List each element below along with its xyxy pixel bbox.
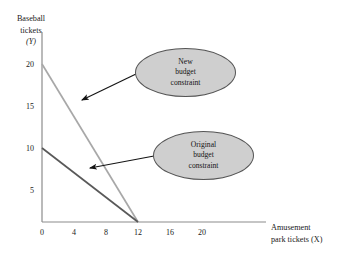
callout-new-line3: constraint	[171, 78, 201, 88]
x-tick-label-8: 8	[96, 228, 116, 237]
callout-new-line1: New	[171, 57, 201, 67]
y-tick-label-15: 15	[14, 102, 34, 111]
x-tick-label-16: 16	[160, 228, 180, 237]
x-axis-title: Amusement park tickets (X)	[271, 222, 337, 245]
y-tick-label-10: 10	[14, 144, 34, 153]
y-tick-label-5: 5	[14, 186, 34, 195]
callout-original-budget-constraint: Original budget constraint	[153, 131, 254, 180]
y-axis-title-line2: tickets	[8, 25, 54, 37]
x-tick-label-12: 12	[128, 228, 148, 237]
original-budget-constraint-line	[42, 148, 138, 222]
new-budget-constraint-line	[42, 64, 138, 222]
x-tick-label-4: 4	[64, 228, 84, 237]
callout-new-line2: budget	[171, 67, 201, 77]
x-axis-title-line2: park tickets (X)	[271, 234, 337, 246]
callout-original-line2: budget	[189, 150, 219, 160]
callout-original-text: Original budget constraint	[189, 140, 219, 171]
budget-constraint-chart: Baseball tickets (Y) Amusement park tick…	[0, 0, 339, 266]
y-tick-label-20: 20	[14, 60, 34, 69]
x-axis-title-line1: Amusement	[271, 222, 337, 234]
x-tick-label-0: 0	[32, 228, 52, 237]
y-axis-title-line3: (Y)	[8, 36, 54, 48]
y-axis-title-line1: Baseball	[8, 13, 54, 25]
new-callout-arrow	[82, 74, 136, 100]
callout-original-line1: Original	[189, 140, 219, 150]
callout-new-text: New budget constraint	[171, 57, 201, 88]
callout-original-line3: constraint	[189, 161, 219, 171]
callout-new-budget-constraint: New budget constraint	[135, 48, 236, 97]
y-axis-title: Baseball tickets (Y)	[8, 13, 54, 48]
x-tick-label-20: 20	[192, 228, 212, 237]
